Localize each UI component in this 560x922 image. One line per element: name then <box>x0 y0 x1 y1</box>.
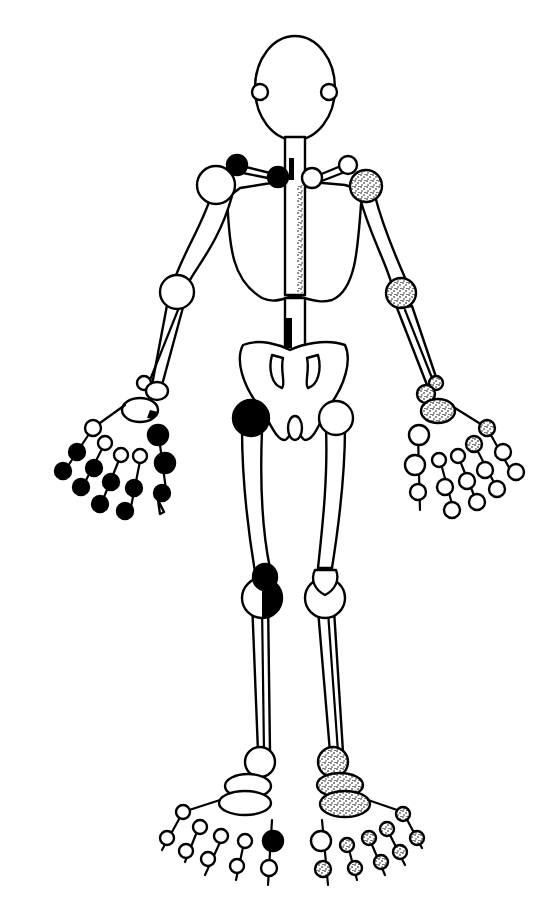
right-middle-mcp <box>114 448 128 462</box>
right-ring-mcp <box>98 436 112 450</box>
left-toe2-ip <box>348 861 362 875</box>
right-middle-pip <box>103 474 119 490</box>
right-toe2-mtp <box>238 834 252 848</box>
tmj-left-joint <box>321 84 337 100</box>
left-toe4-mtp <box>380 822 394 836</box>
right-thumb-ip <box>155 453 175 473</box>
hip-left-joint <box>319 401 353 435</box>
right-toe3-ip <box>201 852 215 866</box>
left-toe2-mtp <box>340 838 354 852</box>
sternoclavicular-left-joint <box>302 168 322 188</box>
patella-right <box>253 564 277 590</box>
left-thumb-ip <box>405 455 425 475</box>
skeleton-figure <box>0 0 560 922</box>
right-little-mcp <box>85 420 101 436</box>
left-little-dip <box>508 464 524 480</box>
tmj-right-joint <box>252 84 268 100</box>
joint-homunculus-diagram <box>0 0 560 922</box>
left-little-pip <box>495 444 511 460</box>
hip-right-joint <box>233 400 269 436</box>
left-toe5-mtp <box>396 807 410 821</box>
left-index-dip <box>444 502 460 518</box>
left-thumb-mcp <box>409 425 429 445</box>
left-ring-pip <box>477 462 493 478</box>
right-tarsal-2 <box>219 791 271 815</box>
sternoclavicular-right-joint <box>268 167 288 187</box>
left-toe5-ip <box>410 831 424 845</box>
elbow-left-joint <box>386 278 416 308</box>
right-toe5-mtp <box>176 805 190 819</box>
left-great-toe-mtp <box>311 831 331 851</box>
right-toe5-ip <box>160 831 174 845</box>
thoracic-spine-marker <box>297 185 303 293</box>
right-toe3-mtp <box>214 829 228 843</box>
right-toe2-ip <box>230 859 244 873</box>
left-index-mcp <box>432 453 446 467</box>
left-toe4-ip <box>393 845 407 859</box>
left-great-toe-ip <box>315 861 331 877</box>
left-hand <box>405 408 524 518</box>
left-middle-pip <box>459 473 475 489</box>
right-great-toe-mtp <box>263 831 283 851</box>
right-thumb-mcp <box>148 425 168 445</box>
right-hand <box>55 405 175 519</box>
right-little-pip <box>69 444 85 460</box>
wrist-right-joint <box>146 382 168 400</box>
right-arm <box>122 166 235 422</box>
right-middle-dip <box>92 496 108 512</box>
right-index-mcp <box>133 449 147 463</box>
left-toe3-mtp <box>362 831 376 845</box>
left-ring-dip <box>489 481 505 497</box>
acromioclavicular-left-joint <box>339 156 357 174</box>
left-tarsal-2 <box>320 791 370 817</box>
right-ring-pip <box>86 460 102 476</box>
cervical-spine-marker <box>289 158 294 180</box>
lumbar-spine-marker <box>286 318 292 348</box>
left-leg <box>305 401 370 817</box>
ankle-right-joint <box>245 747 275 777</box>
acromioclavicular-right-joint <box>227 155 247 175</box>
right-toe4-ip <box>179 844 193 858</box>
skull <box>252 36 337 140</box>
shoulder-left-joint <box>350 170 382 202</box>
left-toe3-ip <box>374 855 388 869</box>
right-thumb-dip <box>154 485 170 501</box>
left-middle-mcp <box>451 449 465 463</box>
spine <box>285 137 305 350</box>
right-foot <box>160 800 283 885</box>
left-index-pip <box>437 479 453 495</box>
right-little-dip <box>55 463 71 479</box>
left-carpals <box>421 399 455 423</box>
left-ring-mcp <box>466 436 482 452</box>
right-leg <box>219 400 282 815</box>
right-toe4-mtp <box>193 820 207 834</box>
right-great-toe-ip <box>261 860 277 876</box>
elbow-right-joint <box>160 275 194 309</box>
left-thumb-dip <box>410 484 426 500</box>
right-index-dip <box>117 503 133 519</box>
right-carpals <box>122 398 158 422</box>
left-middle-dip <box>469 494 485 510</box>
left-little-mcp <box>479 420 495 436</box>
right-index-pip <box>126 480 142 496</box>
right-ring-dip <box>73 479 89 495</box>
